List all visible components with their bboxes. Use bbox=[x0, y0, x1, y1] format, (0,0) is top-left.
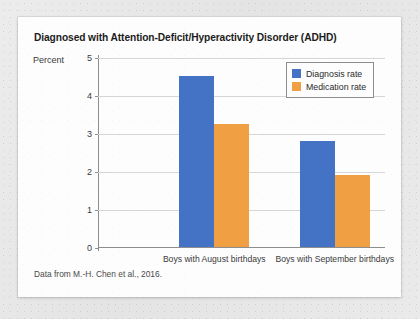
y-tick-label: 2 bbox=[87, 167, 92, 177]
legend-item[interactable]: Diagnosis rate bbox=[292, 67, 366, 80]
y-tick-mark bbox=[95, 134, 98, 135]
y-tick-label: 5 bbox=[87, 53, 92, 63]
y-tick-label: 0 bbox=[87, 243, 92, 253]
x-tick-label: Boys with September birthdays bbox=[276, 254, 394, 264]
y-tick-mark bbox=[95, 172, 98, 173]
source-note: Data from M.-H. Chen et al., 2016. bbox=[34, 269, 162, 279]
legend-swatch bbox=[292, 69, 301, 78]
y-tick-mark bbox=[95, 210, 98, 211]
y-tick-label: 3 bbox=[87, 129, 92, 139]
chart-legend: Diagnosis rateMedication rate bbox=[286, 62, 374, 98]
legend-item[interactable]: Medication rate bbox=[292, 80, 366, 93]
y-tick-label: 4 bbox=[87, 91, 92, 101]
bar-group: Boys with August birthdays bbox=[179, 58, 249, 247]
legend-label: Medication rate bbox=[306, 82, 366, 92]
bar-diagnosis-rate[interactable] bbox=[179, 76, 214, 247]
y-tick-mark bbox=[95, 248, 98, 249]
bar-medication-rate[interactable] bbox=[335, 175, 370, 247]
bar-diagnosis-rate[interactable] bbox=[300, 141, 335, 247]
legend-label: Diagnosis rate bbox=[306, 69, 362, 79]
y-tick-label: 1 bbox=[87, 205, 92, 215]
y-tick-mark bbox=[95, 58, 98, 59]
y-axis-line bbox=[98, 55, 99, 251]
legend-swatch bbox=[292, 82, 301, 91]
x-axis-line bbox=[98, 247, 385, 248]
y-axis-label: Percent bbox=[33, 55, 64, 65]
chart-title: Diagnosed with Attention-Deficit/Hyperac… bbox=[34, 32, 337, 43]
y-tick-mark bbox=[95, 96, 98, 97]
x-tick-label: Boys with August birthdays bbox=[163, 254, 266, 264]
figure-card: Diagnosed with Attention-Deficit/Hyperac… bbox=[18, 17, 401, 297]
bar-medication-rate[interactable] bbox=[214, 124, 249, 248]
